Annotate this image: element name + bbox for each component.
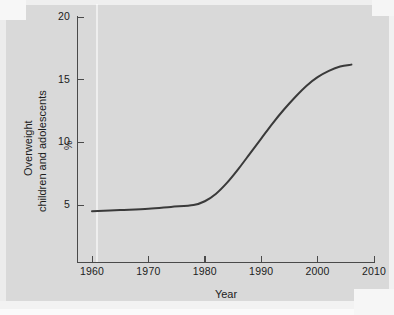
figure-container: 5101520 196019701980199020002010 Overwei… [0, 0, 394, 315]
data-line-curve [0, 0, 394, 315]
plot-area: 5101520 196019701980199020002010 Overwei… [0, 0, 394, 315]
y-axis-title-line1: Overweight [22, 120, 34, 176]
y-axis-unit-label: % [62, 141, 74, 150]
x-axis-title: Year [77, 288, 375, 300]
y-axis-title-line2: children and adolescents [36, 90, 48, 212]
